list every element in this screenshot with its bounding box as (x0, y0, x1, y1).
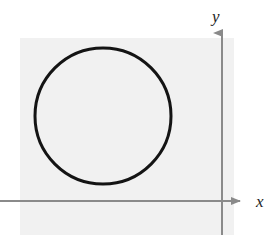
figure-container: x y (0, 0, 278, 250)
figure-svg: x y (0, 0, 278, 250)
y-axis-label: y (210, 7, 220, 26)
x-axis-label: x (255, 192, 264, 211)
plot-panel (20, 38, 234, 235)
